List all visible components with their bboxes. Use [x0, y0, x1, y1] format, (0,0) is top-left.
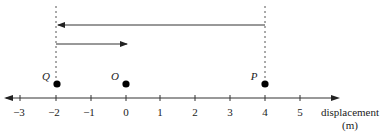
point-p-label: P: [250, 70, 258, 82]
axis-left-arrowhead-icon: [4, 95, 13, 101]
tick-label: −3: [13, 106, 25, 118]
tick-label: 2: [192, 106, 198, 118]
point-q-dot: [53, 80, 60, 87]
tick-label: 1: [157, 106, 163, 118]
axis-label: displacement: [321, 106, 379, 118]
point-o-label: O: [111, 70, 119, 82]
tick-label: −1: [83, 106, 95, 118]
displacement-diagram: −3 −2 −1 0 1 2 3 4 5 displacement (m) Q …: [0, 0, 384, 135]
point-o-dot: [122, 80, 129, 87]
tick-label: 0: [123, 106, 129, 118]
tick-label: 3: [227, 106, 233, 118]
axis-right-arrowhead-icon: [331, 95, 340, 101]
axis-unit-label: (m): [342, 119, 358, 132]
point-q-label: Q: [42, 70, 50, 82]
tick-label: 5: [297, 106, 303, 118]
tick-label: −2: [48, 106, 60, 118]
point-p-dot: [261, 80, 268, 87]
tick-label: 4: [262, 106, 268, 118]
